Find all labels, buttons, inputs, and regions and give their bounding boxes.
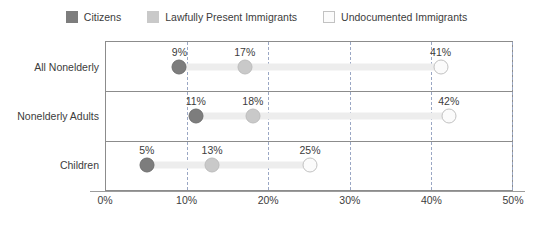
legend-label-lawfully-present-immigrants: Lawfully Present Immigrants	[165, 12, 297, 23]
data-point-citizens[interactable]	[172, 59, 187, 74]
data-point-citizens[interactable]	[139, 158, 154, 173]
x-tick-0: 0%	[97, 194, 112, 206]
x-tick-20: 20%	[258, 194, 279, 206]
range-connector	[179, 63, 440, 70]
legend-label-undocumented-immigrants: Undocumented Immigrants	[341, 12, 467, 23]
data-label-lawfully-present-immigrants: 13%	[202, 144, 223, 156]
x-tick-30: 30%	[339, 194, 360, 206]
chart-row-children: Children5%13%25%	[106, 141, 512, 190]
data-point-lawfully-present-immigrants[interactable]	[205, 158, 220, 173]
legend-item-citizens: Citizens	[66, 11, 121, 23]
legend-swatch-undocumented-immigrants	[323, 11, 335, 23]
data-label-lawfully-present-immigrants: 18%	[242, 95, 263, 107]
data-label-undocumented-immigrants: 42%	[438, 95, 459, 107]
x-tick-10: 10%	[176, 194, 197, 206]
chart-legend: Citizens Lawfully Present Immigrants Und…	[0, 8, 533, 26]
chart-row-all-nonelderly: All Nonelderly9%17%41%	[106, 42, 512, 91]
data-point-lawfully-present-immigrants[interactable]	[245, 108, 260, 123]
chart-plot-area: All Nonelderly9%17%41%Nonelderly Adults1…	[105, 41, 513, 191]
data-point-undocumented-immigrants[interactable]	[441, 108, 456, 123]
gridline-50	[512, 42, 513, 190]
data-label-undocumented-immigrants: 41%	[430, 46, 451, 58]
data-label-citizens: 11%	[186, 95, 206, 107]
data-label-citizens: 9%	[172, 46, 187, 58]
data-label-citizens: 5%	[139, 144, 154, 156]
legend-swatch-lawfully-present-immigrants	[147, 11, 159, 23]
category-label-nonelderly-adults: Nonelderly Adults	[1, 110, 106, 122]
chart-row-nonelderly-adults: Nonelderly Adults11%18%42%	[106, 91, 512, 140]
range-connector	[147, 162, 310, 169]
x-tick-50: 50%	[502, 194, 523, 206]
x-tick-40: 40%	[421, 194, 442, 206]
legend-swatch-citizens	[66, 11, 78, 23]
legend-label-citizens: Citizens	[84, 12, 121, 23]
category-label-all-nonelderly: All Nonelderly	[1, 61, 106, 73]
category-label-children: Children	[1, 159, 106, 171]
data-label-undocumented-immigrants: 25%	[299, 144, 320, 156]
legend-item-lawfully-present-immigrants: Lawfully Present Immigrants	[147, 11, 297, 23]
data-label-lawfully-present-immigrants: 17%	[234, 46, 255, 58]
data-point-lawfully-present-immigrants[interactable]	[237, 59, 252, 74]
x-axis-line	[90, 191, 525, 192]
data-point-citizens[interactable]	[188, 108, 203, 123]
data-point-undocumented-immigrants[interactable]	[303, 158, 318, 173]
range-connector	[196, 112, 449, 119]
legend-item-undocumented-immigrants: Undocumented Immigrants	[323, 11, 467, 23]
data-point-undocumented-immigrants[interactable]	[433, 59, 448, 74]
